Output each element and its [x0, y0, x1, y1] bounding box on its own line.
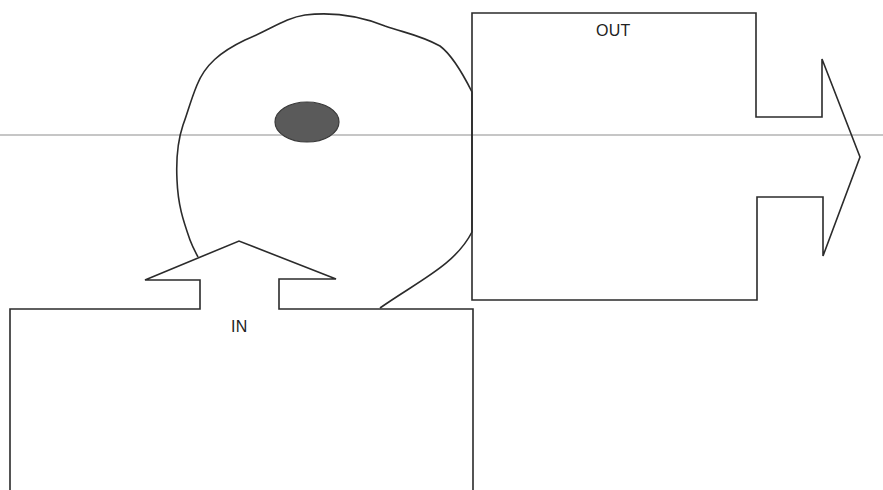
diagram-svg	[0, 0, 883, 490]
in-label: IN	[231, 318, 248, 336]
in-box-outline	[10, 241, 473, 490]
nucleus	[275, 102, 339, 142]
out-box-outline	[472, 13, 860, 300]
diagram-canvas: OUT IN	[0, 0, 883, 490]
out-label: OUT	[596, 22, 631, 40]
cell-outline	[177, 14, 472, 308]
